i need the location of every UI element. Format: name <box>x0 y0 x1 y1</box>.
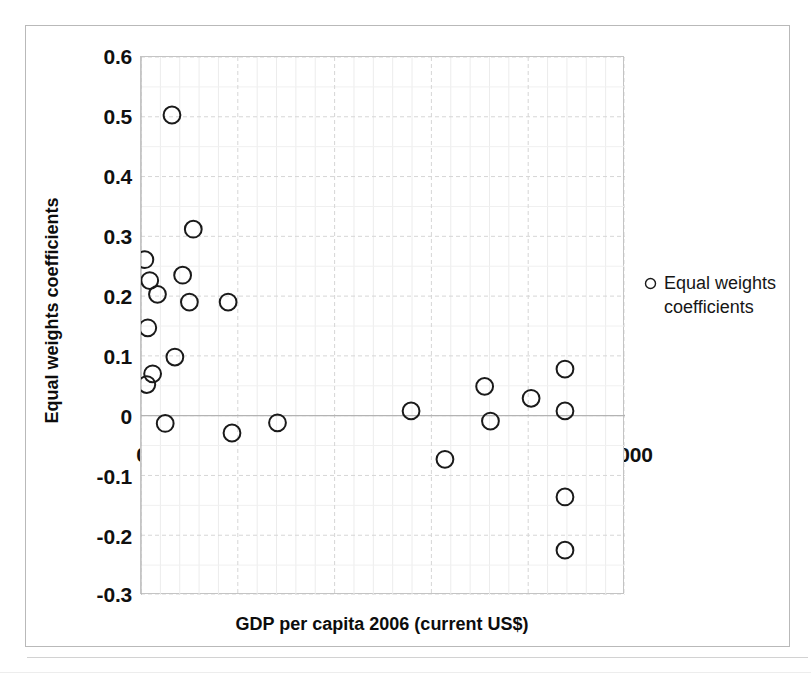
minor-gridlines <box>141 57 625 595</box>
data-point <box>403 402 420 419</box>
legend-open-circle-icon <box>644 276 657 294</box>
scatter-plot-figure: 0.6 0.5 0.4 0.3 0.2 0.1 0 -0.1 -0.2 -0.3… <box>0 0 811 682</box>
x-axis-title: GDP per capita 2006 (current US$) <box>140 614 624 635</box>
legend-label-line2: coefficients <box>664 297 754 317</box>
data-point <box>149 286 166 303</box>
data-point <box>557 542 574 559</box>
data-point <box>174 267 191 284</box>
data-point <box>557 361 574 378</box>
data-point <box>523 390 540 407</box>
scan-artifact-rule-lower <box>0 672 811 673</box>
scatter-plot-canvas <box>141 57 625 595</box>
scan-artifact-rule <box>27 657 808 658</box>
data-point <box>141 376 155 393</box>
data-point <box>557 402 574 419</box>
data-point <box>141 319 156 336</box>
data-point <box>166 349 183 366</box>
y-axis-title: Equal weights coefficients <box>42 111 63 511</box>
legend-label-line1: Equal weights <box>664 273 776 293</box>
data-point <box>224 425 241 442</box>
data-point <box>157 415 174 432</box>
plot-area <box>140 56 624 594</box>
chart-legend: Equal weights coefficients <box>644 272 794 320</box>
legend-entry-label: Equal weights coefficients <box>664 272 776 320</box>
data-point <box>557 489 574 506</box>
data-point <box>181 294 198 311</box>
data-point <box>269 414 286 431</box>
data-point <box>476 378 493 395</box>
data-point <box>141 251 153 268</box>
data-point <box>164 107 181 124</box>
